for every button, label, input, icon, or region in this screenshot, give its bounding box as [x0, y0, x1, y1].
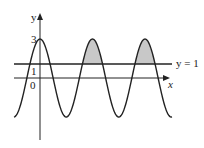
x-axis-label: x	[168, 79, 173, 90]
y-axis-label: y	[31, 12, 37, 23]
tick-label-0: 0	[30, 80, 36, 91]
diagram: y 3 1 0 x y = 1	[0, 0, 204, 148]
line-label: y = 1	[176, 58, 199, 69]
tick-label-1: 1	[31, 66, 37, 77]
y-axis-arrow	[37, 13, 43, 20]
shaded-region	[82, 39, 155, 65]
tick-label-3: 3	[31, 34, 37, 45]
